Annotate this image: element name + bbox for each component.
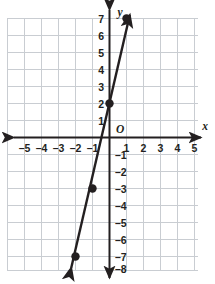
y-tick-label: –8 xyxy=(115,263,127,275)
x-tick-label: 4 xyxy=(175,142,181,154)
y-tick-label: 6 xyxy=(98,30,104,42)
graph-background xyxy=(0,0,215,284)
y-tick-label: 1 xyxy=(98,115,104,127)
x-tick-label: 5 xyxy=(192,142,198,154)
y-tick-label: 2 xyxy=(98,98,104,110)
x-tick-label: 2 xyxy=(141,142,147,154)
coordinate-plane-graph: –5 –4 –3 –2 –1 1 2 3 4 5 7 6 5 4 3 2 1 –… xyxy=(0,0,215,284)
y-tick-label: –5 xyxy=(115,217,127,229)
x-axis-label: x xyxy=(201,120,208,132)
data-point-0-2 xyxy=(105,99,113,107)
x-tick-label: –4 xyxy=(36,142,48,154)
y-tick-label: 5 xyxy=(98,47,104,59)
x-tick-label: 3 xyxy=(158,142,164,154)
data-point-neg2-neg8 xyxy=(71,252,79,260)
x-tick-label: –2 xyxy=(70,142,82,154)
y-tick-label: –1 xyxy=(115,149,127,161)
y-tick-label: 4 xyxy=(98,64,104,76)
y-axis-positive-tick-labels: 7 6 5 4 3 2 1 xyxy=(98,13,104,127)
y-axis-label: y xyxy=(115,6,123,19)
y-tick-label: –7 xyxy=(115,251,127,263)
y-tick-label: 3 xyxy=(98,81,104,93)
data-point-neg1-neg3 xyxy=(88,184,96,192)
y-tick-label: 7 xyxy=(98,13,104,25)
origin-label: O xyxy=(116,123,124,135)
y-tick-label: –6 xyxy=(115,234,127,246)
y-tick-label: –3 xyxy=(115,183,127,195)
x-tick-label: –5 xyxy=(19,142,31,154)
y-tick-label: –4 xyxy=(115,200,127,212)
x-tick-label: –3 xyxy=(53,142,65,154)
data-point-1-7 xyxy=(122,14,130,22)
y-tick-label: –2 xyxy=(115,166,127,178)
coordinate-plane-figure: –5 –4 –3 –2 –1 1 2 3 4 5 7 6 5 4 3 2 1 –… xyxy=(0,0,215,284)
x-tick-label: –1 xyxy=(87,142,99,154)
